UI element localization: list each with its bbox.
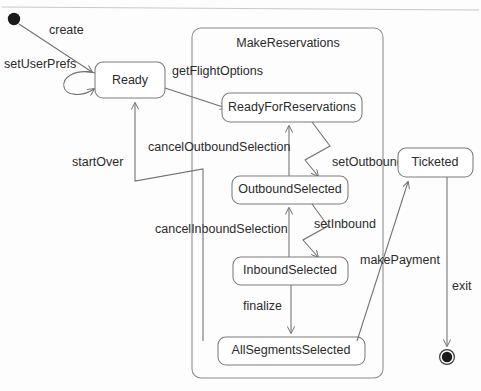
transition-get-flight-options-label: getFlightOptions (172, 64, 263, 78)
transition-create-label: create (49, 23, 84, 37)
transition-exit-label: exit (452, 279, 472, 293)
initial-pseudostate[interactable] (8, 13, 20, 25)
transition-make-payment-label: makePayment (360, 253, 440, 267)
transition-set-user-prefs-label: setUserPrefs (4, 57, 76, 71)
scan-artifact-line (2, 7, 479, 10)
state-ready-label: Ready (112, 73, 149, 87)
transition-set-inbound-label: setInbound (314, 217, 376, 231)
state-ticketed-label: Ticketed (412, 155, 459, 169)
state-ready-for-reservations-label: ReadyForReservations (228, 100, 356, 114)
state-diagram-canvas: MakeReservations create setUserPrefs Rea… (0, 0, 481, 391)
transition-get-flight-options-edge[interactable] (165, 88, 226, 108)
uml-state-diagram: MakeReservations create setUserPrefs Rea… (0, 0, 481, 391)
transition-set-outbound-label: setOutbound (332, 155, 404, 169)
transition-finalize-label: finalize (243, 299, 282, 313)
transition-cancel-inbound-selection-label: cancelInboundSelection (155, 222, 288, 236)
final-state[interactable] (442, 352, 452, 362)
state-all-segments-selected-label: AllSegmentsSelected (232, 343, 351, 357)
transition-set-user-prefs-edge[interactable] (64, 72, 96, 95)
transition-set-outbound-edge[interactable] (305, 122, 330, 176)
state-outbound-selected-label: OutboundSelected (238, 182, 342, 196)
transition-cancel-outbound-selection-label: cancelOutboundSelection (148, 140, 291, 154)
transition-start-over-label: startOver (72, 155, 123, 169)
state-inbound-selected-label: InboundSelected (243, 263, 337, 277)
composite-state-label: MakeReservations (236, 36, 340, 50)
